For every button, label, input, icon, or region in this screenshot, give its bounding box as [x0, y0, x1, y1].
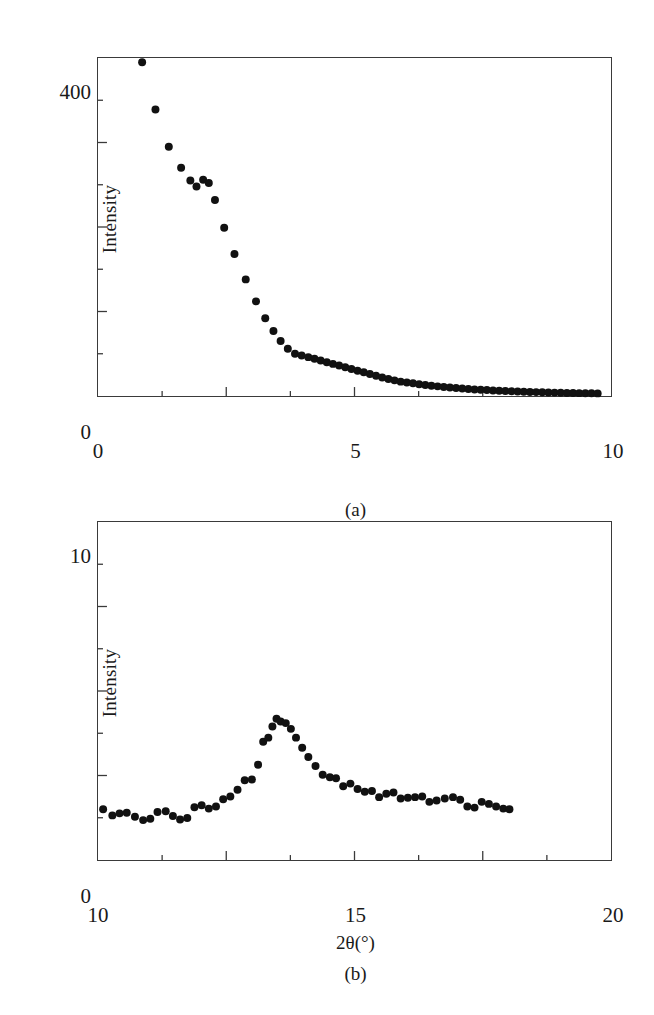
data-point [404, 794, 412, 802]
data-point [146, 815, 154, 823]
data-point [186, 177, 194, 185]
data-point [418, 792, 426, 800]
x-tick-label: 10 [603, 439, 624, 464]
data-point-group [99, 715, 513, 824]
data-point [492, 803, 500, 811]
y-axis-min-label-a: 0 [81, 420, 92, 445]
data-point [433, 797, 441, 805]
data-point [505, 805, 513, 813]
data-point [264, 734, 272, 742]
data-point [226, 792, 234, 800]
data-point [190, 803, 198, 811]
data-point [485, 800, 493, 808]
data-point [242, 275, 250, 283]
data-point [339, 782, 347, 790]
data-point [463, 803, 471, 811]
data-point [292, 734, 300, 742]
y-axis-max-label-b: 10 [70, 544, 91, 569]
data-point [177, 164, 185, 172]
x-tick-label: 5 [350, 439, 361, 464]
panel-b: 10 0 Intensity 101520 2θ(°) (b) [0, 484, 654, 954]
x-tick-label: 20 [603, 903, 624, 928]
data-point [219, 795, 227, 803]
data-point [220, 224, 228, 232]
data-point [594, 389, 602, 397]
data-point [193, 182, 201, 190]
data-point [291, 350, 299, 358]
data-point [248, 776, 256, 784]
data-point [154, 808, 162, 816]
data-point [138, 58, 146, 66]
data-point [304, 753, 312, 761]
data-point [205, 805, 213, 813]
data-point [449, 793, 457, 801]
data-point [277, 337, 285, 345]
data-point [361, 788, 369, 796]
data-point [234, 786, 242, 794]
scatter-plot-b [98, 522, 611, 860]
data-point [284, 345, 292, 353]
xrd-figure: 400 0 Intensity 0510 (a) 10 0 Intensity … [0, 0, 654, 1015]
data-point [176, 815, 184, 823]
data-point [441, 795, 449, 803]
data-point [269, 327, 277, 335]
data-point [131, 813, 139, 821]
panel-a: 400 0 Intensity 0510 (a) [0, 20, 654, 490]
scatter-plot-a [98, 58, 611, 396]
y-axis-max-label-a: 400 [60, 80, 92, 105]
data-point [319, 771, 327, 779]
data-point [123, 809, 131, 817]
data-point [205, 179, 213, 187]
data-point [478, 798, 486, 806]
data-point [346, 780, 354, 788]
data-point [230, 250, 238, 258]
data-point [375, 793, 383, 801]
data-point [183, 814, 191, 822]
data-point [162, 807, 170, 815]
x-tick-label: 15 [345, 903, 366, 928]
data-point [312, 762, 320, 770]
data-point [254, 761, 262, 769]
data-point [298, 351, 306, 359]
data-point [354, 785, 362, 793]
data-point [212, 803, 220, 811]
data-point [425, 798, 433, 806]
data-point [169, 812, 177, 820]
data-point [298, 744, 306, 752]
data-point [151, 106, 159, 114]
data-point [116, 809, 124, 817]
data-point [139, 816, 147, 824]
data-point [198, 801, 206, 809]
data-point [211, 196, 219, 204]
x-tick-label: 10 [88, 903, 109, 928]
data-point [99, 805, 107, 813]
data-point [261, 314, 269, 322]
data-point [252, 297, 260, 305]
data-point [241, 776, 249, 784]
plot-frame-b: 10 0 Intensity 101520 2θ(°) (b) [97, 521, 612, 861]
data-point [165, 143, 173, 151]
panel-caption-b: (b) [98, 963, 613, 985]
x-axis-title-b: 2θ(°) [98, 932, 613, 954]
data-point [332, 774, 340, 782]
data-point [471, 804, 479, 812]
x-tick-label: 0 [93, 439, 104, 464]
data-point [368, 787, 376, 795]
data-point [382, 790, 390, 798]
data-point-group [138, 58, 602, 397]
plot-frame-a: 400 0 Intensity 0510 (a) [97, 57, 612, 397]
data-point [390, 788, 398, 796]
data-point [287, 725, 295, 733]
data-point [456, 796, 464, 804]
data-point [411, 793, 419, 801]
data-point [108, 811, 116, 819]
data-point [397, 795, 405, 803]
data-point [268, 723, 276, 731]
